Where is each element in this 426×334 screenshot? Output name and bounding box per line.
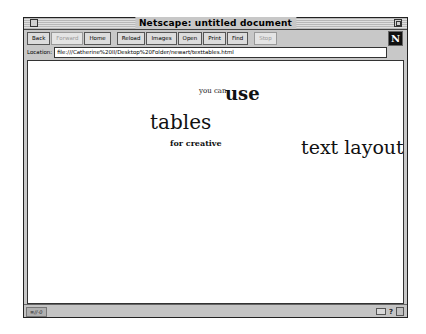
stop-button-group: Stop [254, 32, 278, 44]
mail-icon[interactable] [376, 308, 386, 315]
browser-window: Netscape: untitled document Back Forward… [23, 17, 408, 318]
nav-button-group: Back Forward Home [27, 32, 112, 44]
status-icons: ? [376, 307, 404, 316]
print-button[interactable]: Print [203, 32, 226, 45]
location-label: Location: [27, 49, 52, 55]
location-bar: Location: file:///Catherine%20II/Desktop… [27, 47, 387, 57]
back-button[interactable]: Back [27, 32, 50, 45]
title-bar[interactable]: Netscape: untitled document [24, 18, 407, 30]
stop-button[interactable]: Stop [254, 32, 277, 45]
zoom-box-icon[interactable] [394, 19, 402, 27]
text-tables: tables [150, 112, 211, 132]
security-icon[interactable] [396, 307, 404, 316]
forward-button[interactable]: Forward [51, 32, 83, 45]
connection-indicator: ≡//-0 [26, 307, 47, 317]
location-input[interactable]: file:///Catherine%20II/Desktop%20Folder/… [54, 47, 387, 58]
action-button-group: Reload Images Open Print Find [117, 32, 249, 44]
open-button[interactable]: Open [178, 32, 203, 45]
navigation-toolbar: Back Forward Home Reload Images Open Pri… [27, 32, 283, 44]
netscape-logo-icon[interactable]: N [388, 31, 403, 46]
text-use: use [225, 85, 260, 103]
text-you-can: you can [199, 88, 227, 95]
images-button[interactable]: Images [146, 32, 176, 45]
window-title: Netscape: untitled document [135, 17, 296, 29]
home-button[interactable]: Home [84, 32, 110, 45]
help-icon[interactable]: ? [389, 308, 393, 316]
status-bar: ≡//-0 ? [24, 304, 407, 317]
page-content: you can use tables for creative text lay… [27, 60, 404, 304]
reload-button[interactable]: Reload [117, 32, 146, 45]
close-box-icon[interactable] [30, 19, 38, 27]
text-for-creative: for creative [170, 139, 222, 147]
find-button[interactable]: Find [227, 32, 248, 45]
text-text-layout: text layout [301, 138, 404, 157]
